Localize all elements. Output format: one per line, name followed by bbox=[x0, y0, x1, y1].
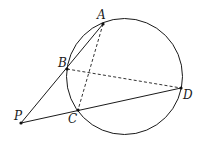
label-p: P bbox=[13, 109, 23, 123]
geometry-diagram: A B C D P bbox=[0, 0, 204, 143]
label-c: C bbox=[68, 112, 77, 126]
circle bbox=[67, 19, 183, 135]
chord-bd-dashed bbox=[67, 69, 181, 88]
label-a: A bbox=[96, 8, 106, 22]
label-b: B bbox=[57, 56, 67, 70]
point-a bbox=[101, 22, 104, 25]
label-d: D bbox=[182, 88, 193, 102]
